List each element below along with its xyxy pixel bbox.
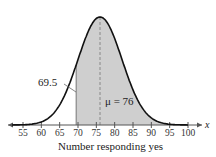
x-axis-symbol: x <box>205 120 209 130</box>
tick-label: 100 <box>181 129 195 139</box>
boundary-label: 69.5 <box>38 77 57 88</box>
mean-label: μ = 76 <box>105 96 134 107</box>
x-axis-label: Number responding yes <box>58 141 163 152</box>
tick-label: 90 <box>147 129 157 139</box>
tick-label: 65 <box>55 129 65 139</box>
tick-label: 60 <box>37 129 47 139</box>
tick-label: 80 <box>110 129 120 139</box>
tick-label: 70 <box>73 129 83 139</box>
tick-label: 55 <box>18 129 28 139</box>
tick-label: 85 <box>128 129 138 139</box>
shaded-area <box>76 17 188 125</box>
axis-right-arrow-icon <box>197 123 202 128</box>
tick-label: 75 <box>92 129 102 139</box>
tick-label: 95 <box>165 129 175 139</box>
